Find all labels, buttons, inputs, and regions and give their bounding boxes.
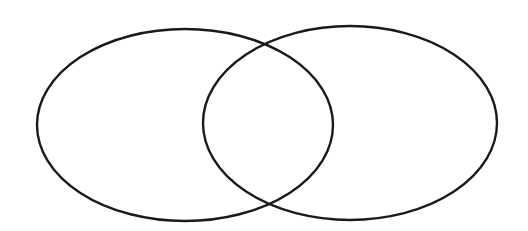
venn-diagram <box>0 0 528 231</box>
left-set-ellipse <box>37 29 333 221</box>
right-set-ellipse <box>203 26 497 220</box>
venn-diagram-svg <box>0 0 528 231</box>
